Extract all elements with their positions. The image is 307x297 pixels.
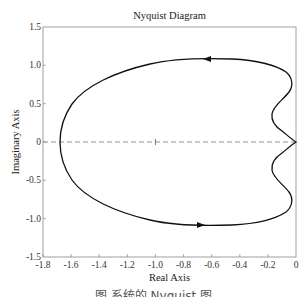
- svg-text:-0.8: -0.8: [176, 260, 191, 270]
- svg-text:-0.5: -0.5: [26, 175, 41, 185]
- svg-text:0: 0: [36, 137, 41, 147]
- svg-text:-1.5: -1.5: [26, 252, 41, 262]
- x-axis-title: Real Axis: [149, 272, 190, 283]
- chart-title: Nyquist Diagram: [133, 10, 206, 21]
- svg-text:0.5: 0.5: [29, 99, 41, 109]
- svg-text:1.5: 1.5: [29, 22, 41, 32]
- svg-text:-0.4: -0.4: [232, 260, 247, 270]
- svg-text:0: 0: [294, 260, 299, 270]
- svg-text:-1.4: -1.4: [92, 260, 107, 270]
- svg-text:-0.6: -0.6: [204, 260, 219, 270]
- y-tick-labels: 1.5 1.0 0.5 0 -0.5 -1.0 -1.5: [26, 22, 41, 262]
- svg-text:-1.2: -1.2: [120, 260, 135, 270]
- y-axis-title: Imaginary Axis: [10, 109, 21, 174]
- svg-text:-0.2: -0.2: [260, 260, 275, 270]
- x-tick-labels: -1.8 -1.6 -1.4 -1.2 -1.0 -0.8 -0.6 -0.4 …: [35, 260, 298, 270]
- svg-text:1.0: 1.0: [29, 60, 41, 70]
- svg-text:-1.6: -1.6: [64, 260, 79, 270]
- figure-caption: 图 系统的 Nyquist 图: [0, 289, 307, 297]
- nyquist-chart: -1.8 -1.6 -1.4 -1.2 -1.0 -0.8 -0.6 -0.4 …: [0, 0, 307, 297]
- svg-text:-1.0: -1.0: [148, 260, 163, 270]
- svg-text:-1.0: -1.0: [26, 214, 41, 224]
